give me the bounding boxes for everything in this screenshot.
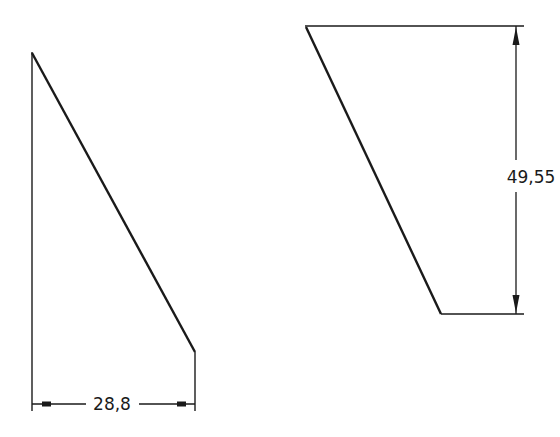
right-figure xyxy=(305,26,524,314)
right-figure-diagonal-edge xyxy=(306,27,441,314)
dimension-arrow-left-icon xyxy=(42,402,51,407)
dimension-arrow-down-icon xyxy=(513,295,520,313)
dimension-arrow-right-icon xyxy=(177,402,186,407)
dimension-label-width: 28,8 xyxy=(93,394,131,414)
left-figure xyxy=(32,52,195,411)
dimension-arrow-up-icon xyxy=(513,27,520,45)
dimension-label-height: 49,55 xyxy=(507,167,556,187)
drawing-canvas: 28,8 49,55 xyxy=(0,0,560,437)
left-figure-diagonal-edge xyxy=(32,53,195,352)
